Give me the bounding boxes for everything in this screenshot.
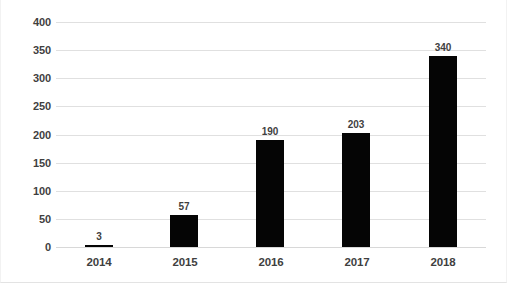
bar-value-label-2014: 3 xyxy=(69,232,129,242)
y-axis-tick-label: 100 xyxy=(7,186,51,197)
y-axis-tick-label: 300 xyxy=(7,73,51,84)
bar-value-label-2017: 203 xyxy=(326,120,386,130)
bar-chart: 400 350 300 250 200 150 100 50 0 3 57 xyxy=(0,0,507,283)
bar-2017[interactable] xyxy=(342,133,370,247)
bar-group-2017[interactable]: 203 xyxy=(342,22,370,247)
bar-value-label-2015: 57 xyxy=(154,202,214,212)
x-axis-tick-label-2017: 2017 xyxy=(312,256,402,268)
y-axis-tick-label: 0 xyxy=(7,242,51,253)
x-axis-tick-label-2014: 2014 xyxy=(54,256,144,268)
x-axis-tick-label-2015: 2015 xyxy=(140,256,230,268)
y-axis-tick-label: 250 xyxy=(7,101,51,112)
y-axis-tick-label: 150 xyxy=(7,158,51,169)
gridline-0-baseline xyxy=(56,247,486,248)
bar-2015[interactable] xyxy=(170,215,198,247)
y-axis-tick-label: 50 xyxy=(7,214,51,225)
bar-2016[interactable] xyxy=(256,140,284,247)
bar-2018[interactable] xyxy=(429,56,457,247)
bar-group-2016[interactable]: 190 xyxy=(256,22,284,247)
y-axis: 400 350 300 250 200 150 100 50 0 xyxy=(1,22,51,247)
y-axis-tick-label: 350 xyxy=(7,45,51,56)
y-axis-tick-label: 400 xyxy=(7,17,51,28)
bar-group-2014[interactable]: 3 xyxy=(85,22,113,247)
bar-value-label-2016: 190 xyxy=(240,127,300,137)
bar-2014[interactable] xyxy=(85,245,113,247)
bar-group-2018[interactable]: 340 xyxy=(429,22,457,247)
x-axis-tick-label-2018: 2018 xyxy=(398,256,488,268)
bar-value-label-2018: 340 xyxy=(413,43,473,53)
plot-area: 3 57 190 203 340 xyxy=(56,22,486,247)
y-axis-tick-label: 200 xyxy=(7,130,51,141)
bar-group-2015[interactable]: 57 xyxy=(170,22,198,247)
x-axis-tick-label-2016: 2016 xyxy=(226,256,316,268)
